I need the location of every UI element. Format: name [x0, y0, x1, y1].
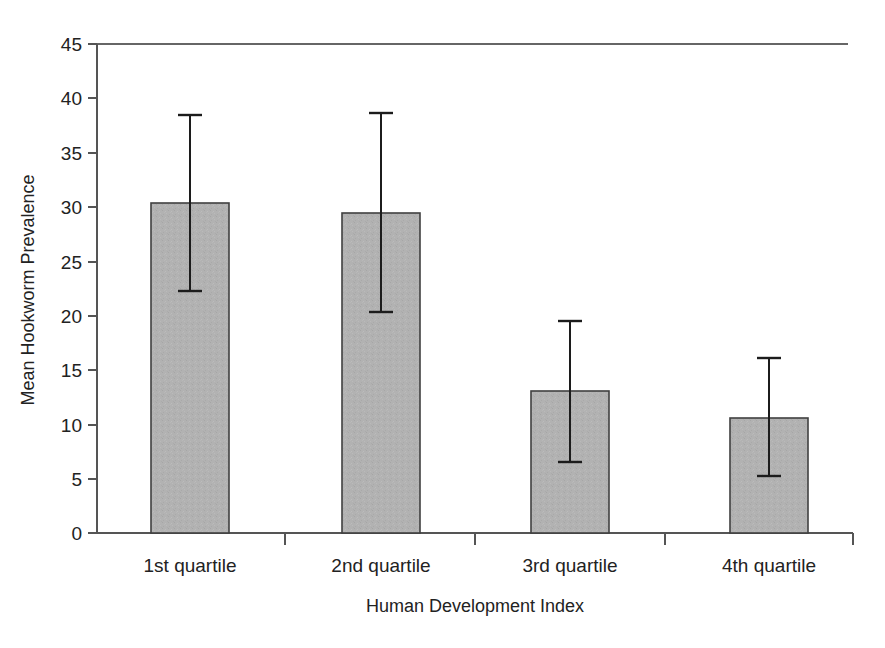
y-axis-title: Mean Hookworm Prevalence — [18, 174, 38, 405]
y-tick-marks — [88, 44, 97, 533]
x-axis-title: Human Development Index — [366, 596, 584, 616]
y-tick-label-10: 10 — [61, 415, 82, 436]
x-category-labels: 1st quartile 2nd quartile 3rd quartile 4… — [144, 555, 816, 576]
y-tick-labels: 45 40 35 30 25 20 15 10 5 0 — [61, 34, 82, 544]
x-label-3rd-quartile: 3rd quartile — [522, 555, 617, 576]
x-label-2nd-quartile: 2nd quartile — [331, 555, 430, 576]
bar-chart-svg: 45 40 35 30 25 20 15 10 5 0 — [0, 0, 885, 648]
y-tick-label-25: 25 — [61, 252, 82, 273]
x-label-4th-quartile: 4th quartile — [722, 555, 816, 576]
y-tick-label-5: 5 — [71, 469, 82, 490]
y-tick-label-30: 30 — [61, 197, 82, 218]
chart-figure: 45 40 35 30 25 20 15 10 5 0 — [0, 0, 885, 648]
x-label-1st-quartile: 1st quartile — [144, 555, 237, 576]
y-tick-label-20: 20 — [61, 306, 82, 327]
bar-group — [151, 203, 808, 533]
y-tick-label-45: 45 — [61, 34, 82, 55]
y-tick-label-40: 40 — [61, 88, 82, 109]
error-bar-group — [178, 113, 781, 476]
y-tick-label-15: 15 — [61, 360, 82, 381]
x-tick-marks — [285, 533, 853, 545]
y-tick-label-35: 35 — [61, 143, 82, 164]
y-tick-label-0: 0 — [71, 523, 82, 544]
